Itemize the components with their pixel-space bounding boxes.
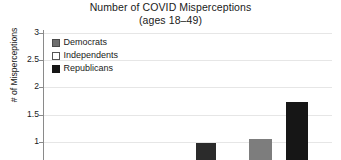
tick-label-2-5: 2.5 (3, 54, 39, 64)
tick-label-1: 1 (3, 136, 39, 146)
legend-swatch-independents-icon (52, 52, 60, 60)
legend-label-democrats: Democrats (64, 37, 108, 48)
chart-title: Number of COVID Misperceptions (0, 1, 341, 14)
tick-label-2: 2 (3, 81, 39, 91)
bar-republicans[interactable] (286, 102, 308, 160)
tick-label-1-5: 1.5 (3, 109, 39, 119)
legend-label-republicans: Republicans (64, 63, 114, 74)
legend-item-democrats[interactable]: Democrats (52, 37, 118, 48)
chart-subtitle: (ages 18–49) (0, 14, 341, 27)
legend-item-republicans[interactable]: Republicans (52, 63, 118, 74)
chart-legend: Democrats Independents Republicans (52, 37, 118, 74)
legend-label-independents: Independents (64, 50, 119, 61)
bar-independents[interactable] (249, 139, 272, 160)
tick-label-3: 3 (3, 27, 39, 37)
chart-title-block: Number of COVID Misperceptions (ages 18–… (0, 1, 341, 26)
legend-swatch-democrats-icon (52, 39, 60, 47)
covid-misperceptions-chart: Number of COVID Misperceptions (ages 18–… (0, 0, 341, 160)
bar-democrats[interactable] (196, 143, 216, 160)
legend-item-independents[interactable]: Independents (52, 50, 118, 61)
y-axis-ticks: 3 2.5 2 1.5 1 (0, 0, 39, 160)
legend-swatch-republicans-icon (52, 65, 60, 73)
